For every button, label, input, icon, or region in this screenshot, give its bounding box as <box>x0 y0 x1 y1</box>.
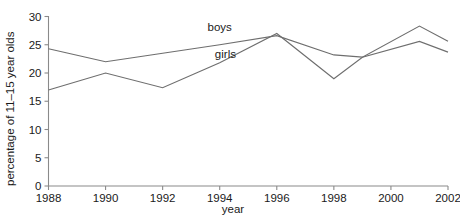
y-tick-label: 25 <box>29 39 42 51</box>
x-tick-label: 1992 <box>150 192 176 204</box>
series-label-girls: girls <box>215 48 236 60</box>
x-tick-label: 1990 <box>93 192 119 204</box>
series-lines <box>49 26 449 90</box>
y-tick-label: 30 <box>29 11 42 23</box>
y-tick-label: 20 <box>29 67 42 79</box>
y-axis-title: percentage of 11–15 year olds <box>4 31 16 186</box>
series-inline-labels: boysgirls <box>208 21 237 60</box>
y-tick-label: 5 <box>35 152 41 164</box>
x-tick-label: 2000 <box>378 192 404 204</box>
series-label-boys: boys <box>208 21 233 33</box>
x-tick-label: 2002 <box>435 192 460 204</box>
x-axis-ticks: 19881990199219941996199820002002 <box>36 186 460 204</box>
y-tick-label: 0 <box>35 180 41 192</box>
series-line-boys <box>49 26 449 62</box>
x-tick-label: 1996 <box>264 192 290 204</box>
y-tick-label: 10 <box>29 124 42 136</box>
y-axis-ticks: 051015202530 <box>29 11 49 193</box>
x-tick-label: 1988 <box>36 192 62 204</box>
line-chart-figure: 051015202530 198819901992199419961998200… <box>0 0 460 223</box>
x-axis-title: year <box>222 203 245 215</box>
chart-canvas: 051015202530 198819901992199419961998200… <box>0 0 460 223</box>
y-tick-label: 15 <box>29 95 42 107</box>
x-tick-label: 1998 <box>321 192 347 204</box>
